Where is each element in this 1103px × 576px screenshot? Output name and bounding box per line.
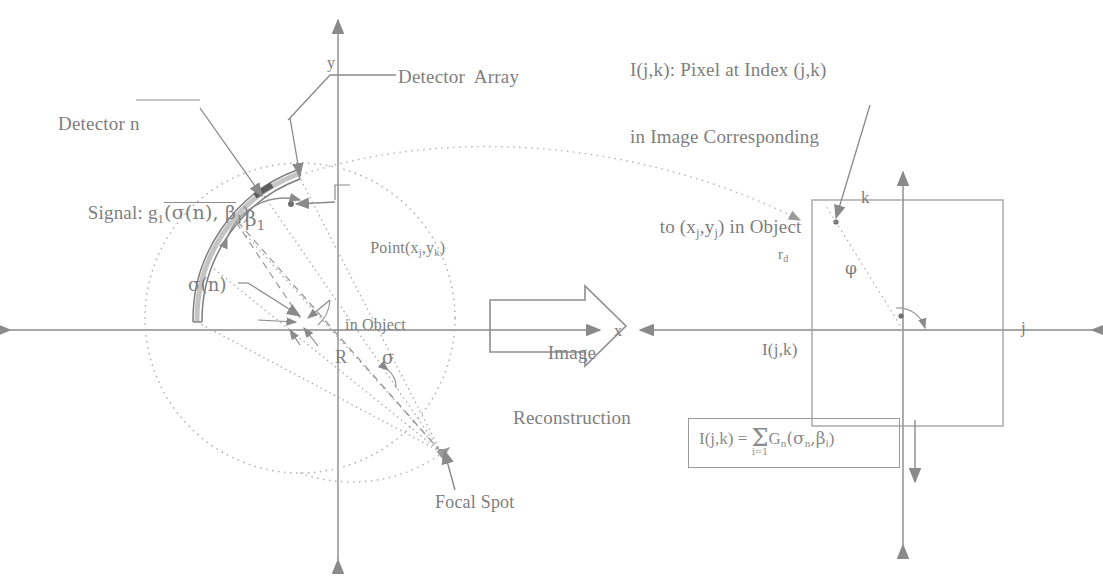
object-point-label: Point(xj,yk) in Object <box>345 182 445 372</box>
signal-prefix: Signal: g <box>88 202 158 223</box>
object-point-line2: in Object <box>345 316 445 335</box>
object-point-line1: Point(xj,yk) <box>345 220 445 278</box>
image-pixel-point <box>833 219 903 318</box>
beta-glyph: β <box>245 207 257 231</box>
rd-sub: d <box>783 253 788 264</box>
sigma-label: σ <box>382 347 395 368</box>
image-matrix <box>812 200 1003 426</box>
sum-lower-limit: i=1 <box>752 449 768 456</box>
focal-spot-trajectory <box>300 448 449 482</box>
image-reconstruction-line1: Image <box>512 342 632 364</box>
beta-label: β1 <box>245 208 265 233</box>
signal-args: (σ(n), β <box>164 202 236 222</box>
pixel-caption-line1: I(j,k): Pixel at Index (j,k) <box>630 59 827 81</box>
summation-symbol: Σi=1 <box>752 429 769 448</box>
point-close: ) <box>440 239 446 256</box>
point-mid: ,y <box>422 239 434 256</box>
pixel-caption-line2: in Image Corresponding <box>630 126 827 148</box>
equation-box: I(j,k) = Σi=1Gn(σn,βi) <box>688 418 900 468</box>
equation-close: ) <box>829 429 835 448</box>
focal-spot-leader <box>444 450 455 490</box>
j-axis-label: j <box>1021 318 1026 338</box>
rd-radius-line <box>826 206 903 330</box>
image-reconstruction-label: Image Reconstruction <box>512 298 632 473</box>
equation-beta: ,β <box>810 428 825 448</box>
pixel-caption: I(j,k): Pixel at Index (j,k) in Image Co… <box>630 14 827 307</box>
phi-label: φ <box>845 258 857 278</box>
pixel-caption-line3: to (xj,yj) in Object <box>630 193 827 262</box>
pixel-caption-to: to (x <box>660 216 696 237</box>
rd-label: rd <box>778 246 788 264</box>
radius-label: R <box>335 347 347 368</box>
sigma-n-angle <box>236 222 330 325</box>
image-reconstruction-line2: Reconstruction <box>512 407 632 429</box>
sigma-n-label: σ(n) <box>188 274 227 295</box>
equation-G: G <box>769 429 781 448</box>
detector-signal-line2: Signal: g1(σ(n), β1) <box>58 180 249 249</box>
object-point-leader <box>296 185 350 204</box>
equation-content: I(j,k) = Σi=1Gn(σn,βi) <box>699 428 834 449</box>
detector-signal-line1: Detector n <box>58 113 249 135</box>
isocenter-arrows <box>258 300 330 346</box>
pixel-caption-end: ) in Object <box>718 216 801 237</box>
equation-sigma: (σ <box>786 428 804 448</box>
equation-lhs: I(j,k) = <box>699 429 747 448</box>
focal-spot-label: Focal Spot <box>435 492 515 513</box>
point-prefix: Point(x <box>370 239 419 256</box>
beta-sub: 1 <box>257 218 266 233</box>
pixel-caption-mid: ,y <box>700 216 715 237</box>
detector-array-leader <box>288 75 396 176</box>
k-axis-label: k <box>861 188 870 208</box>
y-axis-label: y <box>327 54 335 73</box>
diagram-canvas: Detector n Signal: g1(σ(n), β1) Detector… <box>0 0 1103 576</box>
detector-array-label: Detector Array <box>398 66 519 88</box>
detector-signal-label: Detector n Signal: g1(σ(n), β1) <box>58 68 249 294</box>
image-function-label: I(j,k) <box>762 340 798 360</box>
object-point-marker <box>288 201 294 207</box>
